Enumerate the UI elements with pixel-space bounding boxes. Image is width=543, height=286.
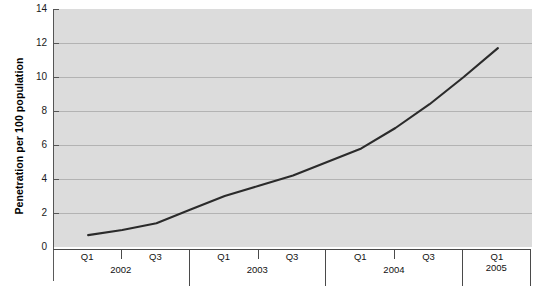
y-axis-ticks	[54, 10, 59, 248]
x-axis-quarter-label: Q1	[463, 252, 531, 262]
x-axis-mid-tick	[121, 250, 122, 259]
x-axis-year-group: Q1Q32003	[190, 250, 327, 286]
x-axis-year-label: 2005	[463, 263, 530, 273]
y-axis-tick-labels: 14 12 10 8 6 4 2 0	[23, 0, 47, 286]
x-axis-year-label: 2003	[190, 265, 326, 275]
x-axis-quarter-label: Q3	[121, 252, 189, 262]
x-axis-year-group: Q12005	[463, 250, 531, 286]
penetration-line-chart: Penetration per 100 population 14 12 10 …	[0, 0, 543, 286]
y-tick-label: 10	[25, 72, 47, 82]
x-axis-mid-tick	[394, 250, 395, 259]
y-tick-label: 8	[25, 106, 47, 116]
x-axis-quarter-label: Q1	[326, 252, 394, 262]
y-tick-label: 0	[25, 242, 47, 252]
x-axis-year-group: Q1Q32004	[326, 250, 463, 286]
plot-svg	[54, 9, 532, 247]
x-axis-year-label: 2004	[326, 265, 462, 275]
x-axis-quarter-label: Q3	[394, 252, 462, 262]
plot-area	[53, 9, 532, 247]
gridlines	[54, 44, 532, 248]
y-tick-label: 4	[25, 174, 47, 184]
data-series-line	[88, 48, 498, 235]
y-tick-label: 14	[25, 4, 47, 14]
x-axis-year-label: 2002	[53, 265, 189, 275]
x-axis-quarter-label: Q1	[190, 252, 258, 262]
x-axis-year-group: Q1Q32002	[53, 250, 190, 286]
x-axis: Q1Q32002Q1Q32003Q1Q32004Q12005	[53, 249, 531, 286]
x-axis-quarter-label: Q1	[53, 252, 121, 262]
x-axis-mid-tick	[258, 250, 259, 259]
y-tick-label: 6	[25, 140, 47, 150]
y-tick-label: 12	[25, 38, 47, 48]
x-axis-quarter-label: Q3	[258, 252, 326, 262]
y-tick-label: 2	[25, 208, 47, 218]
